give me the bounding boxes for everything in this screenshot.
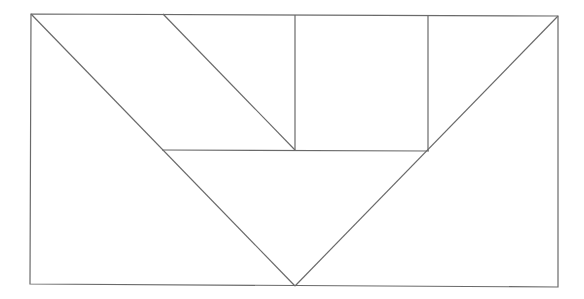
parallelogram-diagonal bbox=[163, 14, 295, 150]
middle-horizontal bbox=[162, 150, 429, 151]
diagram-svg bbox=[0, 0, 584, 299]
tangram-diagram bbox=[0, 0, 584, 299]
